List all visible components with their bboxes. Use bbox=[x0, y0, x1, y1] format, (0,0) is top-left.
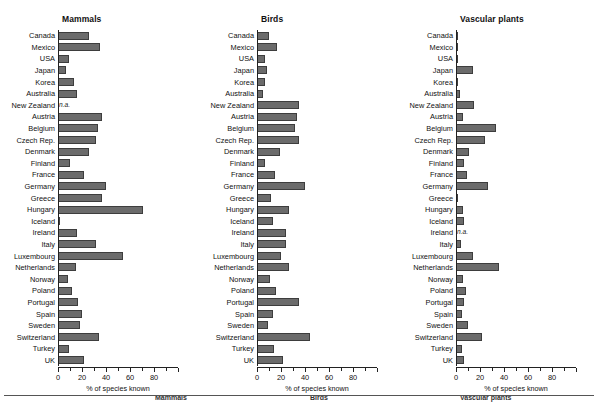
bar-track bbox=[58, 355, 199, 367]
bar bbox=[257, 229, 286, 237]
category-label: Denmark bbox=[199, 147, 257, 156]
x-axis-tick-major bbox=[178, 368, 179, 372]
bar bbox=[257, 78, 265, 86]
bar-row: Canada bbox=[0, 30, 199, 42]
bar bbox=[257, 206, 289, 214]
bar bbox=[257, 113, 297, 121]
bar-row: UK bbox=[398, 355, 598, 367]
bar-track bbox=[58, 65, 199, 77]
bar bbox=[257, 66, 267, 74]
bar-row: Germany bbox=[398, 181, 598, 193]
bar-row: Netherlands bbox=[199, 262, 398, 274]
bar-row: USA bbox=[0, 53, 199, 65]
bar-track bbox=[257, 192, 398, 204]
bar-track bbox=[456, 181, 598, 193]
bar-track bbox=[456, 297, 598, 309]
bar-track bbox=[257, 100, 398, 112]
bar-row: New Zealand bbox=[199, 100, 398, 112]
x-axis-tick-major bbox=[130, 368, 131, 372]
category-label: Italy bbox=[199, 240, 257, 249]
category-label: Luxembourg bbox=[199, 252, 257, 261]
bar-track bbox=[257, 123, 398, 135]
bar-row: Belgium bbox=[199, 123, 398, 135]
bar-track bbox=[58, 76, 199, 88]
category-label: Denmark bbox=[0, 147, 58, 156]
x-axis-tick-minor bbox=[492, 368, 493, 370]
bar-row: Irelandn.a. bbox=[398, 227, 598, 239]
category-label: Turkey bbox=[398, 344, 456, 353]
bar-row: France bbox=[0, 169, 199, 181]
bar-track bbox=[456, 65, 598, 77]
bar-row: Mexico bbox=[199, 42, 398, 54]
bar-track bbox=[257, 227, 398, 239]
bar-row: Poland bbox=[398, 285, 598, 297]
x-axis-tick-minor bbox=[94, 368, 95, 370]
category-label: Mexico bbox=[398, 43, 456, 52]
bar-rows-mammals: CanadaMexicoUSAJapanKoreaAustraliaNew Ze… bbox=[0, 30, 199, 366]
bar-row: Australia bbox=[199, 88, 398, 100]
bar bbox=[58, 252, 123, 260]
bar bbox=[257, 136, 299, 144]
y-axis-line bbox=[257, 30, 258, 366]
bar-track bbox=[58, 158, 199, 170]
x-axis-tick-minor bbox=[468, 368, 469, 370]
bar-track bbox=[456, 204, 598, 216]
bar bbox=[58, 182, 106, 190]
x-axis-tick-label: 20 bbox=[277, 373, 285, 382]
category-label: Germany bbox=[398, 182, 456, 191]
bar-track bbox=[58, 273, 199, 285]
bar-track bbox=[58, 146, 199, 158]
bar-track bbox=[58, 30, 199, 42]
category-label: USA bbox=[199, 54, 257, 63]
bar-row: Japan bbox=[199, 65, 398, 77]
bar-track bbox=[456, 250, 598, 262]
y-axis-line bbox=[456, 30, 457, 366]
panel-title-birds: Birds bbox=[261, 14, 283, 24]
bar-track bbox=[456, 343, 598, 355]
category-label: Australia bbox=[199, 89, 257, 98]
category-label: Mexico bbox=[199, 43, 257, 52]
bar-track bbox=[456, 273, 598, 285]
bar-row: Australia bbox=[398, 88, 598, 100]
bar-row: Iceland bbox=[0, 216, 199, 228]
category-label: Spain bbox=[199, 310, 257, 319]
bar bbox=[257, 182, 305, 190]
x-axis-tick-label: 60 bbox=[126, 373, 134, 382]
category-label: Switzerland bbox=[0, 333, 58, 342]
bar-track bbox=[257, 181, 398, 193]
category-label: Czech Rep. bbox=[199, 136, 257, 145]
bar bbox=[58, 240, 96, 248]
bar-row: Sweden bbox=[398, 320, 598, 332]
category-label: Turkey bbox=[199, 344, 257, 353]
bar bbox=[58, 298, 78, 306]
category-label: Portugal bbox=[199, 298, 257, 307]
bar-track bbox=[456, 192, 598, 204]
x-axis-tick-major bbox=[281, 368, 282, 372]
bar-track bbox=[257, 134, 398, 146]
bar-row: Poland bbox=[0, 285, 199, 297]
category-label: Netherlands bbox=[199, 263, 257, 272]
bar-row: Sweden bbox=[0, 320, 199, 332]
bar-row: Turkey bbox=[0, 343, 199, 355]
x-axis-tick-major bbox=[576, 368, 577, 372]
bar bbox=[257, 148, 280, 156]
bar-row: Belgium bbox=[398, 123, 598, 135]
bar bbox=[257, 310, 273, 318]
bar bbox=[456, 217, 464, 225]
category-label: Portugal bbox=[398, 298, 456, 307]
bar bbox=[456, 101, 474, 109]
category-label: Luxembourg bbox=[398, 252, 456, 261]
bar-track bbox=[58, 297, 199, 309]
panel-vascular-plants: Vascular plants CanadaMexicoUSAJapanKore… bbox=[398, 0, 598, 402]
category-label: Greece bbox=[199, 194, 257, 203]
category-label: Japan bbox=[398, 66, 456, 75]
bar-track bbox=[257, 331, 398, 343]
bar bbox=[58, 171, 84, 179]
bar bbox=[257, 194, 271, 202]
bar-row: Norway bbox=[199, 273, 398, 285]
category-label: France bbox=[0, 170, 58, 179]
bar bbox=[257, 101, 299, 109]
bar-track bbox=[456, 239, 598, 251]
category-label: Hungary bbox=[398, 205, 456, 214]
category-label: Norway bbox=[199, 275, 257, 284]
